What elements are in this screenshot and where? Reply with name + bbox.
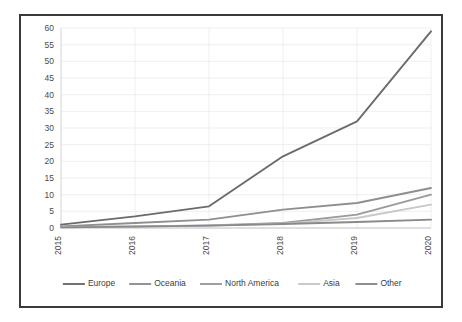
x-tick-label: 2020 [423, 236, 433, 255]
y-tick-label: 50 [45, 56, 55, 66]
y-tick-label: 15 [45, 173, 55, 183]
legend-label-europe: Europe [88, 278, 116, 288]
x-tick-label: 2017 [201, 236, 211, 255]
chart-frame: 051015202530354045505560 201520162017201… [19, 14, 443, 308]
x-tick-label: 2015 [53, 236, 63, 255]
y-tick-label: 20 [45, 156, 55, 166]
y-tick-label: 60 [45, 23, 55, 33]
legend-label-other: Other [380, 278, 401, 288]
chart-plot-area: 051015202530354045505560 201520162017201… [21, 16, 445, 310]
y-tick-label: 35 [45, 106, 55, 116]
x-tick-label: 2019 [349, 236, 359, 255]
gridlines-group [61, 28, 431, 228]
legend-label-asia: Asia [323, 278, 340, 288]
data-series-group [61, 31, 431, 227]
y-tick-label: 25 [45, 140, 55, 150]
legend-label-oceania: Oceania [154, 278, 186, 288]
y-tick-label: 55 [45, 40, 55, 50]
y-tick-label: 0 [49, 223, 54, 233]
y-tick-label: 40 [45, 90, 55, 100]
legend-label-north-america: North America [225, 278, 279, 288]
x-tick-label: 2018 [275, 236, 285, 255]
chart-legend: EuropeOceaniaNorth AmericaAsiaOther [63, 278, 402, 288]
y-axis-tick-labels: 051015202530354045505560 [45, 23, 55, 233]
x-tick-label: 2016 [127, 236, 137, 255]
y-tick-label: 5 [49, 206, 54, 216]
y-tick-label: 30 [45, 123, 55, 133]
y-tick-label: 45 [45, 73, 55, 83]
x-axis-tick-labels: 201520162017201820192020 [53, 236, 433, 255]
line-chart-svg: 051015202530354045505560 201520162017201… [21, 16, 445, 310]
y-tick-label: 10 [45, 190, 55, 200]
